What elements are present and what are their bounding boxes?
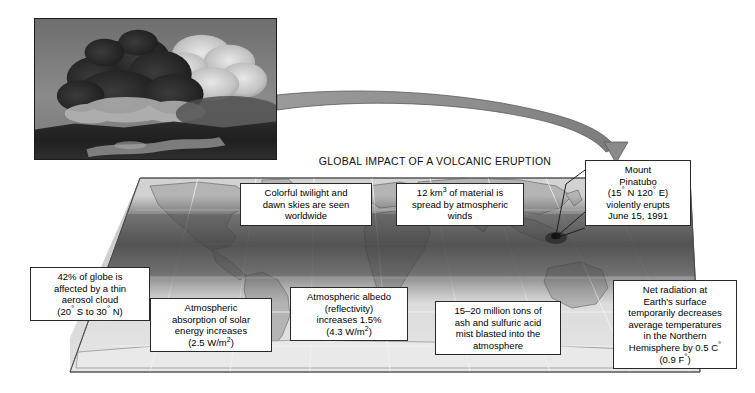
pinatubo-line-5: June 15, 1991 xyxy=(608,210,668,221)
pinatubo-line-1: Mount xyxy=(625,164,651,175)
volcanic-eruption-impact-diagram: GLOBAL IMPACT OF A VOLCANIC ERUPTION Mou… xyxy=(0,0,755,393)
netrad-fahrenheit-value: (0.9 F xyxy=(659,354,684,365)
absorption-close-paren: ) xyxy=(231,337,234,348)
material-line-1: 12 km3 of material is xyxy=(417,187,503,198)
material-line-2: spread by atmospheric xyxy=(412,199,508,210)
aerosol-lat-open: (20 xyxy=(57,306,71,317)
twilight-line-2: dawn skies are seen xyxy=(263,199,350,210)
absorption-line-3: energy increases xyxy=(175,325,247,336)
callout-colorful-twilight: Colorful twilight and dawn skies are see… xyxy=(240,183,372,226)
material-line-3: winds xyxy=(448,210,472,221)
netrad-celsius-value: Hemisphere by 0.5 C xyxy=(629,342,718,353)
ash-line-1: 15–20 million tons of xyxy=(454,305,541,316)
albedo-line-2: (reflectivity) xyxy=(325,303,374,314)
pinatubo-line-4: violently erupts xyxy=(606,199,669,210)
photo-to-map-arrow xyxy=(277,91,628,163)
netrad-line-2: Earth's surface xyxy=(643,296,706,307)
aerosol-line-2: affected by a thin xyxy=(54,283,126,294)
page-title: GLOBAL IMPACT OF A VOLCANIC ERUPTION xyxy=(305,155,565,167)
albedo-value: (4.3 W/m2) xyxy=(326,326,372,337)
pinatubo-lon-value: N 120 xyxy=(625,187,653,198)
absorption-value: (2.5 W/m2) xyxy=(188,337,234,348)
netrad-fahrenheit: (0.9 F°) xyxy=(659,354,690,365)
pinatubo-lon-close: E) xyxy=(656,187,668,198)
callout-atmospheric-albedo: Atmospheric albedo (reflectivity) increa… xyxy=(290,287,408,341)
material-volume: 12 km xyxy=(417,187,443,198)
absorption-line-2: absorption of solar xyxy=(172,314,250,325)
aerosol-line-1: 42% of globe is xyxy=(58,271,123,282)
eruption-photo-artwork xyxy=(35,19,276,159)
eruption-photograph xyxy=(34,18,277,160)
aerosol-lat-close: N) xyxy=(110,306,123,317)
absorption-line-1: Atmospheric xyxy=(185,302,238,313)
pinatubo-lat-open: (15 xyxy=(608,187,622,198)
twilight-line-3: worldwide xyxy=(285,210,327,221)
callout-ash-and-sulfuric-acid: 15–20 million tons of ash and sulfuric a… xyxy=(435,301,561,355)
aerosol-lat-mid: S to 30 xyxy=(74,306,107,317)
pinatubo-coords: (15° N 120° E) xyxy=(608,187,668,198)
netrad-line-4: average temperatures xyxy=(629,319,722,330)
netrad-close-paren: ) xyxy=(687,354,690,365)
twilight-line-1: Colorful twilight and xyxy=(265,187,348,198)
albedo-flux: (4.3 W/m xyxy=(326,326,365,337)
ash-line-2: ash and sulfuric acid xyxy=(455,317,542,328)
ash-line-3: mist blasted into the xyxy=(456,328,541,339)
netrad-celsius: Hemisphere by 0.5 C° xyxy=(629,342,721,353)
callout-mount-pinatubo: Mount Pinatubo (15° N 120° E) violently … xyxy=(585,160,691,226)
ash-line-4: atmosphere xyxy=(473,340,523,351)
albedo-line-3: increases 1.5% xyxy=(317,314,382,325)
callout-atmospheric-absorption: Atmospheric absorption of solar energy i… xyxy=(150,298,272,352)
degree-symbol-icon: ° xyxy=(718,340,721,349)
absorption-flux: (2.5 W/m xyxy=(188,337,227,348)
material-line-1-rest: of material is xyxy=(447,187,504,198)
albedo-close-paren: ) xyxy=(369,326,372,337)
netrad-line-3: temporarily decreases xyxy=(628,307,721,318)
netrad-line-1: Net radiation at xyxy=(643,284,707,295)
callout-net-radiation: Net radiation at Earth's surface tempora… xyxy=(613,280,737,369)
albedo-line-1: Atmospheric albedo xyxy=(307,291,391,302)
callout-material-spread: 12 km3 of material is spread by atmosphe… xyxy=(396,183,524,226)
callout-aerosol-cloud: 42% of globe is affected by a thin aeros… xyxy=(30,267,150,321)
aerosol-latitude-range: (20° S to 30° N) xyxy=(57,306,123,317)
netrad-line-5: in the Northern xyxy=(644,330,707,341)
